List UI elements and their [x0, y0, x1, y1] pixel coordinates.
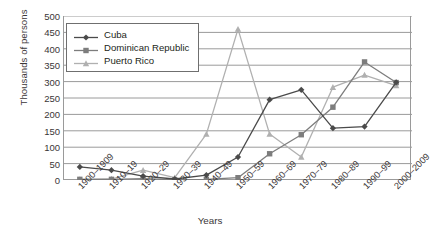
legend-item[interactable]: Puerto Rico	[73, 54, 189, 67]
legend-item[interactable]: Cuba	[73, 28, 189, 41]
x-axis-tick-label: 1990–99	[361, 159, 393, 191]
data-point-marker	[83, 34, 89, 40]
legend-marker-icon	[73, 29, 99, 40]
x-axis-tick-label: 1910–19	[107, 159, 139, 191]
x-axis-title: Years	[0, 215, 420, 226]
legend-item[interactable]: Dominican Republic	[73, 41, 189, 54]
x-axis-tick-label: 1950–59	[234, 159, 266, 191]
x-axis-tick-label: 1970–79	[297, 159, 329, 191]
legend-marker-icon	[73, 55, 99, 66]
x-axis-tick-label: 2000–2009	[392, 151, 432, 191]
legend-label: Cuba	[104, 29, 127, 40]
x-axis-tick-label: 1930–39	[171, 159, 203, 191]
x-axis-tick-label: 1960–69	[266, 159, 298, 191]
legend-label: Dominican Republic	[104, 42, 189, 53]
x-axis-tick-label: 1980–89	[329, 159, 361, 191]
legend-marker-icon	[73, 42, 99, 53]
legend-label: Puerto Rico	[104, 55, 154, 66]
legend: CubaDominican RepublicPuerto Rico	[66, 23, 199, 72]
x-axis-tick-label: 1940–49	[202, 159, 234, 191]
data-point-marker	[83, 48, 88, 53]
x-axis-tick-label: 1920–29	[139, 159, 171, 191]
